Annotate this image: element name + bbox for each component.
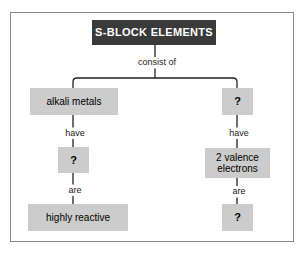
node-two-valence-electrons-line2: electrons [217, 163, 258, 174]
node-left-question-1[interactable]: ? [58, 147, 89, 173]
link-label-consist-of: consist of [131, 57, 183, 68]
diagram-canvas: S-BLOCK ELEMENTS consist of alkali metal… [0, 0, 306, 256]
node-alkali-metals[interactable]: alkali metals [30, 88, 118, 115]
node-two-valence-electrons[interactable]: 2 valence electrons [205, 148, 270, 178]
node-highly-reactive[interactable]: highly reactive [28, 204, 128, 231]
node-right-question-2[interactable]: ? [222, 204, 253, 231]
link-label-have-left: have [60, 128, 90, 139]
link-label-are-right: are [226, 186, 252, 197]
link-label-have-right: have [224, 128, 254, 139]
link-label-are-left: are [62, 185, 88, 196]
node-two-valence-electrons-line1: 2 valence [216, 152, 259, 163]
node-right-question-1[interactable]: ? [222, 88, 253, 115]
node-title-s-block-elements[interactable]: S-BLOCK ELEMENTS [92, 20, 216, 45]
